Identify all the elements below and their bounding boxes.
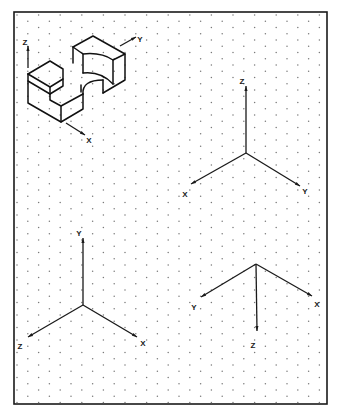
grid-dot (38, 264, 40, 266)
grid-dot (27, 258, 29, 260)
grid-dot (200, 271, 202, 273)
grid-dot (81, 202, 83, 204)
grid-dot (70, 371, 72, 373)
grid-dot (81, 152, 83, 154)
grid-dot (157, 96, 159, 98)
grid-dot (254, 114, 256, 116)
grid-dot (178, 221, 180, 223)
grid-dot (265, 58, 267, 60)
grid-dot (178, 246, 180, 248)
grid-dot (189, 14, 191, 16)
grid-dot (92, 271, 94, 273)
grid-dot (103, 14, 105, 16)
grid-dot (286, 271, 288, 273)
grid-dot (49, 146, 51, 148)
grid-dot (232, 127, 234, 129)
grid-dot (167, 377, 169, 379)
grid-dot (265, 296, 267, 298)
grid-dot (92, 383, 94, 385)
grid-dot (113, 146, 115, 148)
grid-dot (92, 46, 94, 48)
grid-dot (232, 89, 234, 91)
grid-dot (135, 258, 137, 260)
grid-dot (70, 358, 72, 360)
grid-dot (200, 71, 202, 73)
grid-dot (178, 71, 180, 73)
grid-dot (59, 77, 61, 79)
grid-dot (319, 214, 321, 216)
grid-dot (275, 277, 277, 279)
grid-dot (70, 396, 72, 398)
grid-dot (81, 252, 83, 254)
grid-dot (221, 271, 223, 273)
grid-dot (254, 89, 256, 91)
grid-dot (103, 389, 105, 391)
grid-dot (265, 83, 267, 85)
grid-dot (189, 327, 191, 329)
grid-dot (124, 189, 126, 191)
grid-dot (265, 233, 267, 235)
grid-dot (243, 296, 245, 298)
grid-dot (49, 271, 51, 273)
grid-dot (297, 202, 299, 204)
grid-dot (70, 383, 72, 385)
grid-dot (27, 71, 29, 73)
grid-dot (146, 64, 148, 66)
grid-dot (157, 46, 159, 48)
grid-dot (81, 39, 83, 41)
grid-dot (308, 71, 310, 73)
grid-dot (254, 127, 256, 129)
grid-dot (275, 339, 277, 341)
grid-dot (49, 196, 51, 198)
grid-dot (319, 77, 321, 79)
grid-dot (211, 164, 213, 166)
grid-dot (124, 139, 126, 141)
grid-dot (243, 183, 245, 185)
grid-dot (103, 339, 105, 341)
grid-dot (135, 158, 137, 160)
grid-dot (70, 258, 72, 260)
grid-dot (135, 333, 137, 335)
grid-dot (286, 321, 288, 323)
grid-dot (200, 396, 202, 398)
grid-dot (70, 21, 72, 23)
grid-dot (200, 221, 202, 223)
grid-dot (254, 277, 256, 279)
grid-dot (92, 121, 94, 123)
grid-dot (297, 189, 299, 191)
grid-dot (38, 127, 40, 129)
grid-dot (49, 258, 51, 260)
grid-dot (286, 221, 288, 223)
grid-dot (124, 164, 126, 166)
grid-dot (49, 321, 51, 323)
grid-dot (275, 52, 277, 54)
axis-label-y: Y (302, 187, 308, 196)
grid-dot (200, 383, 202, 385)
grid-dot (27, 246, 29, 248)
grid-dot (232, 389, 234, 391)
grid-dot (265, 108, 267, 110)
grid-dot (319, 89, 321, 91)
grid-dot (254, 39, 256, 41)
grid-dot (275, 14, 277, 16)
grid-dot (70, 133, 72, 135)
grid-dot (167, 277, 169, 279)
grid-dot (49, 358, 51, 360)
grid-dot (232, 302, 234, 304)
grid-dot (49, 208, 51, 210)
grid-dot (157, 371, 159, 373)
grid-dot (319, 39, 321, 41)
grid-dot (49, 333, 51, 335)
grid-dot (200, 83, 202, 85)
grid-dot (70, 108, 72, 110)
grid-dot (275, 377, 277, 379)
grid-dot (49, 308, 51, 310)
grid-dot (254, 314, 256, 316)
grid-dot (103, 189, 105, 191)
grid-dot (189, 202, 191, 204)
grid-dot (286, 358, 288, 360)
grid-dot (297, 89, 299, 91)
grid-dot (27, 21, 29, 23)
grid-dot (135, 383, 137, 385)
grid-dot (319, 27, 321, 29)
